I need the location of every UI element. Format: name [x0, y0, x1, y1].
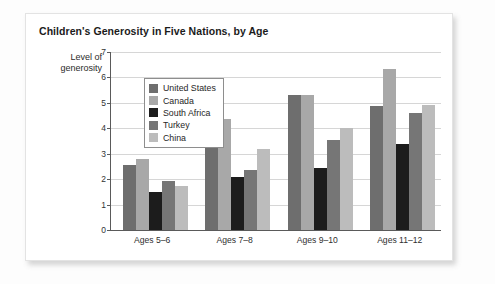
- y-axis-tick-mark: [107, 77, 111, 78]
- bar: [257, 149, 270, 230]
- bar: [396, 144, 409, 230]
- bar: [149, 192, 162, 230]
- bar: [123, 165, 136, 230]
- bar-group: [370, 52, 435, 230]
- bar: [370, 106, 383, 230]
- y-axis-tick-label: 5: [101, 98, 106, 108]
- bar: [314, 168, 327, 230]
- legend-item: Turkey: [149, 119, 216, 131]
- y-axis-tick-label: 1: [101, 200, 106, 210]
- x-axis-tick-label: Ages 11–12: [359, 235, 442, 245]
- y-axis-label-line-2: generosity: [28, 63, 102, 74]
- legend-item: Canada: [149, 94, 216, 106]
- y-axis-tick-mark: [107, 230, 111, 231]
- y-axis-tick-label: 3: [101, 149, 106, 159]
- legend-color-swatch: [149, 96, 158, 105]
- y-axis-tick-label: 0: [101, 225, 106, 235]
- legend-item-label: United States: [163, 83, 216, 93]
- bar: [383, 69, 396, 230]
- y-axis-tick-mark: [107, 179, 111, 180]
- y-axis-tick-mark: [107, 205, 111, 206]
- legend-color-swatch: [149, 133, 158, 142]
- y-axis-tick-label: 2: [101, 174, 106, 184]
- y-axis-tick-label: 4: [101, 123, 106, 133]
- bar: [205, 148, 218, 230]
- bar: [327, 140, 340, 230]
- legend-item: China: [149, 132, 216, 144]
- legend-color-swatch: [149, 121, 158, 130]
- bar: [288, 95, 301, 230]
- chart-legend: United StatesCanadaSouth AfricaTurkeyChi…: [144, 78, 224, 148]
- bar: [136, 159, 149, 230]
- y-axis-tick-mark: [107, 128, 111, 129]
- y-axis-tick-mark: [107, 154, 111, 155]
- bar: [244, 170, 257, 230]
- legend-item-label: Turkey: [163, 120, 190, 130]
- y-axis-tick-label: 7: [101, 47, 106, 57]
- bar: [422, 105, 435, 230]
- legend-item-label: South Africa: [163, 108, 210, 118]
- bar: [340, 128, 353, 230]
- legend-item: South Africa: [149, 107, 216, 119]
- y-axis-tick-mark: [107, 103, 111, 104]
- x-axis-tick-label: Ages 9–10: [276, 235, 359, 245]
- bar: [409, 113, 422, 230]
- bar: [175, 186, 188, 231]
- y-axis-tick-label: 6: [101, 72, 106, 82]
- bar: [301, 95, 314, 230]
- legend-item-label: China: [163, 133, 186, 143]
- x-axis-line: [110, 230, 441, 231]
- y-axis-label-line-1: Level of: [28, 52, 102, 63]
- plot-area: 01234567 Ages 5–6Ages 7–8Ages 9–10Ages 1…: [111, 52, 441, 235]
- legend-item: United States: [149, 82, 216, 94]
- legend-color-swatch: [149, 84, 158, 93]
- bar-group: [288, 52, 353, 230]
- chart-card: Children's Generosity in Five Nations, b…: [25, 13, 453, 261]
- x-axis-tick-label: Ages 5–6: [111, 235, 194, 245]
- x-axis-tick-label: Ages 7–8: [194, 235, 277, 245]
- bar: [231, 177, 244, 230]
- legend-color-swatch: [149, 108, 158, 117]
- legend-item-label: Canada: [163, 96, 194, 106]
- bar: [162, 181, 175, 230]
- y-axis-label: Level of generosity: [28, 52, 102, 74]
- y-axis-tick-mark: [107, 52, 111, 53]
- page-title: Children's Generosity in Five Nations, b…: [39, 25, 268, 37]
